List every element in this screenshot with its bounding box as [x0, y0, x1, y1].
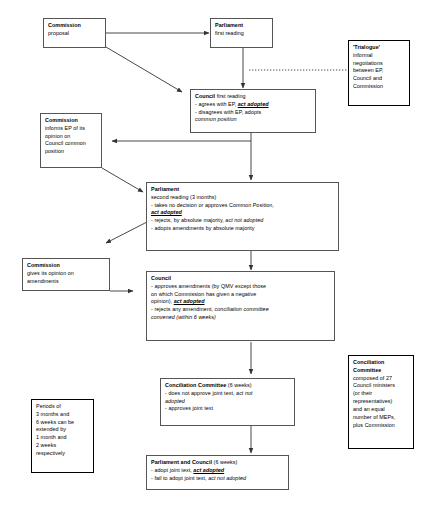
- parliament-second-reading-line-1: second reading (3 months): [151, 194, 334, 202]
- conciliation-committee-line-2: adopted: [165, 398, 290, 406]
- council-second-reading-line-5: convened (within 6 weeks): [151, 314, 330, 322]
- conciliation-composition-line-3: (or their: [353, 390, 409, 398]
- commission-opinion-amendments-heading: Commission: [27, 262, 105, 270]
- edge-parliament-second-to-commission-opinion: [106, 222, 147, 243]
- commission-informs-ep-line-4: position: [45, 148, 97, 156]
- council-second-reading-line-2: on which Commission has given a negative: [151, 291, 330, 299]
- conciliation-composition-heading-1: Conciliation: [353, 359, 409, 367]
- trialogue-heading: 'Trialogue': [353, 44, 405, 52]
- periods-note-line-2: 3 months and: [36, 411, 89, 419]
- conciliation-committee-composition-box[interactable]: Conciliation Committee composed of 27 Co…: [348, 355, 414, 449]
- parliament-and-council-box[interactable]: Parliament and Council (6 weeks) - adopt…: [146, 455, 289, 490]
- conciliation-composition-line-1: composed of 27: [353, 375, 409, 383]
- council-second-reading-box[interactable]: Council - approves amendments (by QMV ex…: [146, 271, 335, 341]
- council-second-reading-line-3: opinion), act adopted: [151, 298, 330, 306]
- conciliation-committee-line-3: - approves joint text: [165, 405, 290, 413]
- edge-commission-to-council-first: [106, 47, 182, 92]
- conciliation-composition-line-5: and an equal: [353, 406, 409, 414]
- parliament-second-reading-line-5: - adopts amendments by absolute majority: [151, 225, 334, 233]
- trialogue-line-3: between EP,: [353, 67, 405, 75]
- commission-informs-ep-line-1: informs EP of its: [45, 125, 97, 133]
- periods-note-line-1: Periods of: [36, 403, 89, 411]
- conciliation-composition-heading-2: Committee: [353, 367, 409, 375]
- council-first-reading-heading-row: Council first reading: [195, 93, 311, 101]
- council-second-reading-line-1: - approves amendments (by QMV except tho…: [151, 283, 330, 291]
- commission-proposal-box[interactable]: Commission proposal: [43, 18, 106, 48]
- trialogue-line-4: Council and: [353, 75, 405, 83]
- periods-note-box[interactable]: Periods of 3 months and 6 weeks can be e…: [31, 399, 94, 473]
- periods-note-line-7: respectively: [36, 450, 89, 458]
- parliament-second-reading-line-2: - takes no decision or approves Common P…: [151, 202, 334, 210]
- council-first-reading-line-2: - disagrees with EP, adopts: [195, 109, 311, 117]
- parliament-second-reading-heading: Parliament: [151, 186, 334, 194]
- commission-proposal-heading: Commission: [48, 22, 101, 30]
- commission-opinion-amendments-line-2: amendments: [27, 278, 105, 286]
- parliament-first-reading-line-1: first reading: [215, 30, 268, 38]
- periods-note-line-5: 1 month and: [36, 434, 89, 442]
- conciliation-composition-line-4: representatives): [353, 398, 409, 406]
- conciliation-composition-line-7: plus Commission: [353, 422, 409, 430]
- conciliation-composition-line-6: number of MEPs,: [353, 414, 409, 422]
- edge-council-first-to-commission-informs: [112, 133, 251, 141]
- commission-informs-ep-line-3: Council common: [45, 140, 97, 148]
- periods-note-line-6: 2 weeks: [36, 442, 89, 450]
- commission-opinion-amendments-line-1: gives its opinion on: [27, 270, 105, 278]
- commission-informs-ep-box[interactable]: Commission informs EP of its opinion on …: [40, 113, 102, 168]
- council-first-reading-line-1: - agrees with EP, act adopted: [195, 101, 311, 109]
- parliament-first-reading-box[interactable]: Parliament first reading: [210, 18, 273, 48]
- periods-note-line-4: extended by: [36, 426, 89, 434]
- commission-informs-ep-heading: Commission: [45, 117, 97, 125]
- parliament-second-reading-line-4: - rejects, by absolute majority, act not…: [151, 217, 334, 225]
- conciliation-committee-line-1: - does not approve joint text, act not: [165, 390, 290, 398]
- commission-informs-ep-line-2: opinion on: [45, 133, 97, 141]
- parliament-and-council-heading-row: Parliament and Council (6 weeks): [151, 459, 284, 467]
- council-first-reading-heading: Council: [195, 93, 215, 99]
- conciliation-composition-line-2: Council ministers: [353, 382, 409, 390]
- council-first-reading-line-3: common position: [195, 116, 311, 124]
- trialogue-line-2: negotiations: [353, 60, 405, 68]
- council-first-reading-heading-tail: first reading: [215, 93, 245, 99]
- conciliation-committee-heading: Conciliation Committee: [165, 382, 226, 388]
- commission-opinion-amendments-box[interactable]: Commission gives its opinion on amendmen…: [22, 258, 110, 291]
- parliament-and-council-heading: Parliament and Council: [151, 459, 212, 465]
- trialogue-line-5: Commission: [353, 83, 405, 91]
- edge-commission-informs-to-parliament-second: [102, 168, 143, 192]
- parliament-and-council-line-1: - adopt joint text, act adopted: [151, 467, 284, 475]
- council-second-reading-line-4: - rejects any amendment, conciliation co…: [151, 306, 330, 314]
- trialogue-box[interactable]: 'Trialogue' informal negotiations betwee…: [348, 40, 410, 106]
- parliament-and-council-heading-tail: (6 weeks): [212, 459, 237, 465]
- conciliation-committee-heading-row: Conciliation Committee (6 weeks): [165, 382, 290, 390]
- parliament-and-council-line-2: - fail to adopt joint text, act not adop…: [151, 475, 284, 483]
- periods-note-line-3: 6 weeks can be: [36, 419, 89, 427]
- parliament-second-reading-box[interactable]: Parliament second reading (3 months) - t…: [146, 182, 339, 251]
- conciliation-committee-box[interactable]: Conciliation Committee (6 weeks) - does …: [160, 378, 295, 426]
- commission-proposal-line-1: proposal: [48, 30, 101, 38]
- flowchart-canvas: Commission proposal Parliament first rea…: [0, 0, 426, 511]
- parliament-first-reading-heading: Parliament: [215, 22, 268, 30]
- conciliation-committee-heading-tail: (6 weeks): [226, 382, 251, 388]
- council-first-reading-box[interactable]: Council first reading - agrees with EP, …: [190, 89, 316, 133]
- council-second-reading-heading: Council: [151, 275, 330, 283]
- trialogue-line-1: informal: [353, 52, 405, 60]
- parliament-second-reading-line-3: act adopted: [151, 209, 334, 217]
